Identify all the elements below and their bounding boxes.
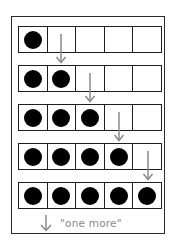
frame-cell	[76, 144, 105, 169]
frame-cell	[19, 183, 48, 208]
five-frame-row-5	[18, 182, 162, 209]
frame-cell	[133, 66, 161, 91]
down-arrow-icon	[55, 34, 67, 64]
frame-cell	[48, 144, 77, 169]
counter-dot	[24, 109, 42, 127]
frame-cell	[76, 105, 105, 130]
frame-cell	[105, 27, 134, 52]
counter-dot	[24, 187, 42, 205]
counter-dot	[81, 109, 99, 127]
frame-cell	[76, 27, 105, 52]
frame-cell	[48, 66, 77, 91]
counter-dot	[81, 187, 99, 205]
frame-cell	[76, 183, 105, 208]
counter-dot	[52, 148, 70, 166]
counter-dot	[52, 187, 70, 205]
frame-cell	[48, 183, 77, 208]
counter-dot	[81, 148, 99, 166]
frame-cell	[105, 144, 134, 169]
five-frame-row-3	[18, 104, 162, 131]
legend-label: "one more"	[60, 217, 122, 229]
frame-cell	[19, 144, 48, 169]
frame-cell	[19, 105, 48, 130]
frame-cell	[133, 27, 161, 52]
legend: "one more"	[40, 214, 140, 232]
five-frame-row-4	[18, 143, 162, 170]
counter-dot	[52, 109, 70, 127]
counter-dot	[110, 148, 128, 166]
counter-dot	[52, 70, 70, 88]
frame-cell	[133, 183, 161, 208]
down-arrow-icon	[40, 214, 52, 232]
frame-cell	[19, 66, 48, 91]
frame-cell	[19, 27, 48, 52]
counter-dot	[110, 187, 128, 205]
frame-cell	[48, 105, 77, 130]
counter-dot	[24, 70, 42, 88]
counter-dot	[138, 187, 156, 205]
down-arrow-icon	[84, 73, 96, 103]
down-arrow-icon	[113, 112, 125, 142]
frame-cell	[105, 183, 134, 208]
down-arrow-icon	[142, 151, 154, 181]
five-frame-row-1	[18, 26, 162, 53]
counter-dot	[24, 148, 42, 166]
frame-cell	[105, 66, 134, 91]
frame-cell	[133, 105, 161, 130]
counter-dot	[24, 31, 42, 49]
